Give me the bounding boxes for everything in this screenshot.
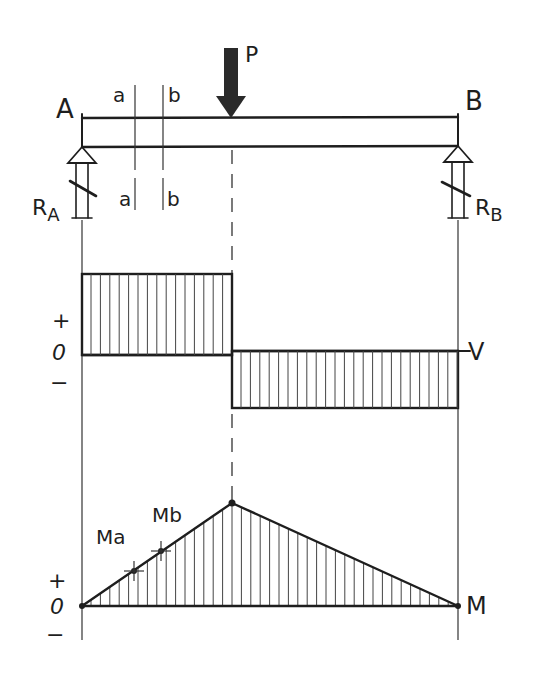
- moment-sign-plus: +: [48, 568, 66, 593]
- beam: [82, 114, 458, 147]
- section-label-a-top: a: [113, 83, 125, 107]
- load-label: P: [245, 42, 258, 67]
- shear-label-v: V: [468, 338, 485, 366]
- load-arrow-icon: [216, 48, 246, 118]
- shear-sign-plus: +: [52, 308, 70, 333]
- reaction-arrow-a-icon: [68, 147, 96, 640]
- shear-sign-minus: −: [50, 370, 68, 395]
- support-label-b: B: [465, 86, 483, 116]
- moment-label-m: M: [466, 592, 487, 620]
- beam-diagram: A B P a b a b RA RB: [0, 0, 536, 673]
- support-label-a: A: [56, 94, 74, 124]
- moment-label-mb: Mb: [152, 503, 182, 527]
- moment-label-ma: Ma: [96, 525, 126, 549]
- shear-diagram: [82, 274, 470, 408]
- moment-sign-minus: −: [46, 622, 64, 647]
- section-label-b-bottom: b: [167, 187, 180, 211]
- shear-sign-zero: 0: [52, 340, 66, 365]
- section-label-a-bottom: a: [119, 187, 131, 211]
- reaction-label-b: RB: [475, 195, 503, 225]
- reaction-label-a: RA: [32, 195, 60, 225]
- moment-point-a-marker: [124, 561, 144, 581]
- moment-diagram: [79, 500, 461, 610]
- section-label-b-top: b: [168, 83, 181, 107]
- moment-sign-zero: 0: [50, 594, 64, 619]
